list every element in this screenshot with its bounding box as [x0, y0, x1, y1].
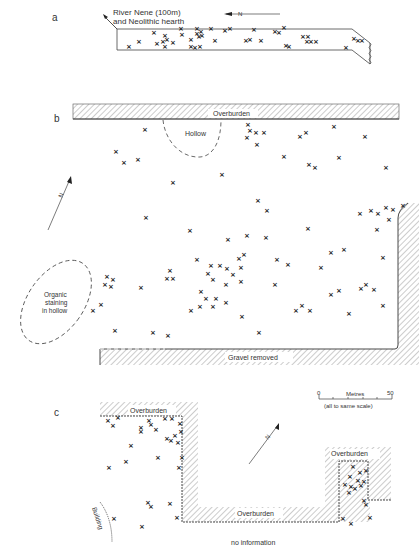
svg-text:×: × — [307, 307, 313, 315]
svg-text:×: × — [177, 420, 183, 428]
no-information-label: no information — [231, 539, 275, 546]
svg-text:×: × — [348, 520, 354, 528]
svg-text:×: × — [380, 302, 386, 310]
svg-text:×: × — [112, 327, 118, 335]
svg-text:×: × — [343, 44, 349, 52]
svg-text:×: × — [179, 31, 185, 39]
svg-text:×: × — [238, 264, 244, 272]
svg-text:×: × — [167, 267, 173, 275]
svg-text:×: × — [90, 307, 96, 315]
svg-text:×: × — [256, 329, 262, 337]
svg-text:×: × — [153, 426, 159, 434]
hollow-label: Hollow — [185, 130, 207, 137]
panel-b: b Overburden Hollow N Organic staining i… — [6, 104, 419, 365]
gravel-removed-label: Gravel removed — [228, 354, 278, 361]
svg-text:×: × — [363, 467, 369, 475]
svg-text:×: × — [148, 503, 154, 511]
svg-text:×: × — [239, 313, 245, 321]
svg-text:×: × — [165, 332, 171, 340]
svg-text:×: × — [258, 37, 264, 45]
svg-text:×: × — [208, 262, 214, 270]
panel-label-b: b — [54, 113, 60, 124]
svg-text:×: × — [110, 422, 116, 430]
north-arrow-b: N — [48, 176, 72, 230]
svg-text:×: × — [223, 281, 229, 289]
svg-text:×: × — [164, 275, 170, 283]
svg-text:×: × — [174, 514, 180, 522]
scale-note: (all to same scale) — [324, 403, 373, 409]
svg-text:×: × — [342, 481, 348, 489]
svg-text:×: × — [297, 133, 303, 141]
svg-text:N: N — [57, 192, 64, 198]
organic-label-2: staining — [45, 299, 68, 307]
svg-text:×: × — [106, 464, 112, 472]
scale-bar: 0 Metres 50 (all to same scale) — [317, 390, 394, 409]
svg-text:×: × — [350, 463, 356, 471]
svg-text:×: × — [374, 226, 380, 234]
svg-text:×: × — [199, 32, 205, 40]
svg-text:N: N — [264, 434, 271, 441]
svg-text:×: × — [162, 415, 168, 423]
scale-unit: Metres — [346, 391, 364, 397]
svg-text:×: × — [210, 276, 216, 284]
svg-text:×: × — [386, 216, 392, 224]
scale-start: 0 — [317, 390, 321, 396]
svg-text:×: × — [115, 414, 121, 422]
gravel-removed-strip — [100, 203, 419, 365]
svg-text:×: × — [251, 26, 257, 34]
svg-text:×: × — [108, 283, 114, 291]
svg-text:×: × — [341, 246, 347, 254]
svg-text:×: × — [187, 227, 193, 235]
svg-text:×: × — [227, 25, 233, 33]
svg-text:×: × — [318, 264, 324, 272]
svg-text:×: × — [123, 458, 129, 466]
svg-text:×: × — [138, 428, 144, 436]
svg-text:×: × — [139, 523, 145, 531]
svg-text:×: × — [383, 204, 389, 212]
svg-text:×: × — [357, 210, 363, 218]
svg-text:×: × — [104, 273, 110, 281]
svg-text:×: × — [162, 43, 168, 51]
svg-text:×: × — [223, 299, 229, 307]
svg-text:×: × — [170, 275, 176, 283]
svg-text:×: × — [390, 206, 396, 214]
building-label: Building — [90, 506, 105, 531]
river-label-line2: and Neolithic hearth — [113, 17, 184, 26]
svg-text:×: × — [380, 254, 386, 262]
panel-a: a River Nene (100m) and Neolithic hearth… — [52, 8, 371, 64]
scale-end: 50 — [387, 390, 394, 396]
svg-text:×: × — [213, 295, 219, 303]
svg-text:×: × — [197, 43, 203, 51]
svg-text:×: × — [170, 39, 176, 47]
north-arrow-a: N — [224, 11, 280, 17]
hollow-outline — [163, 120, 221, 157]
svg-text:×: × — [375, 210, 381, 218]
svg-text:×: × — [238, 278, 244, 286]
svg-text:×: × — [111, 515, 117, 523]
river-label-line1: River Nene (100m) — [113, 8, 181, 17]
svg-text:×: × — [359, 37, 365, 45]
svg-text:×: × — [244, 232, 250, 240]
svg-text:×: × — [306, 161, 312, 169]
organic-label-3: in hollow — [42, 307, 68, 314]
svg-text:×: × — [194, 256, 200, 264]
svg-text:×: × — [224, 265, 230, 273]
svg-text:×: × — [208, 25, 214, 33]
svg-text:×: × — [121, 159, 127, 167]
svg-text:×: × — [230, 271, 236, 279]
svg-text:×: × — [358, 482, 364, 490]
svg-text:×: × — [128, 442, 134, 450]
panel-label-a: a — [52, 12, 58, 23]
svg-text:×: × — [126, 43, 132, 51]
svg-text:N: N — [238, 11, 242, 17]
svg-text:×: × — [272, 281, 278, 289]
svg-text:×: × — [363, 281, 369, 289]
panel-c: c 0 Metres 50 (all to same scale) Overbu… — [54, 390, 394, 546]
svg-text:×: × — [244, 134, 250, 142]
svg-text:×: × — [254, 141, 260, 149]
svg-text:×: × — [331, 123, 337, 131]
svg-text:×: × — [286, 43, 292, 51]
svg-text:×: × — [188, 307, 194, 315]
svg-text:×: × — [219, 171, 225, 179]
overburden-label-c-top: Overburden — [130, 407, 167, 414]
